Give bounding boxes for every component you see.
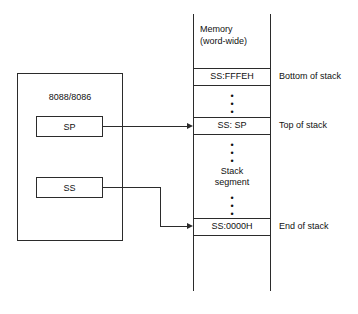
memory-divider-1 <box>193 68 271 69</box>
memory-divider-4 <box>193 134 271 135</box>
memory-cell-end-of-stack: SS:0000H <box>193 221 271 232</box>
stack-segment-label-line1: Stack <box>193 166 271 177</box>
memory-cell-bottom-of-stack: SS:FFFEH <box>193 71 271 82</box>
memory-header-line2: (word-wide) <box>200 35 247 47</box>
side-label-top-of-stack: Top of stack <box>279 120 327 131</box>
memory-ellipsis-middle-upper: • • • <box>193 141 271 165</box>
stack-diagram: 8088/8086 SP SS Memory (word-wide) SS:FF… <box>0 0 358 314</box>
ellipsis-dot: • <box>193 210 271 218</box>
ss-arrow-segment-horizontal-1 <box>103 187 161 188</box>
cpu-title: 8088/8086 <box>18 92 122 102</box>
memory-ellipsis-lower: • • • <box>193 194 271 218</box>
ss-arrow-head <box>187 223 193 229</box>
memory-divider-3 <box>193 117 271 118</box>
memory-ellipsis-upper: • • • <box>193 92 271 116</box>
side-label-end-of-stack: End of stack <box>279 221 329 232</box>
memory-divider-6 <box>193 235 271 236</box>
memory-cell-top-of-stack: SS: SP <box>193 120 271 131</box>
ellipsis-dot: • <box>193 108 271 116</box>
sp-arrow-head <box>187 123 193 129</box>
register-box-sp[interactable]: SP <box>36 116 103 137</box>
side-label-bottom-of-stack: Bottom of stack <box>279 71 341 82</box>
ss-arrow-segment-horizontal-2 <box>160 226 187 227</box>
register-label-sp: SP <box>37 122 102 132</box>
cpu-box: 8088/8086 <box>17 73 123 241</box>
sp-arrow-line <box>103 126 187 127</box>
stack-segment-label-line2: segment <box>193 177 271 188</box>
ss-arrow-segment-vertical <box>160 187 161 227</box>
register-label-ss: SS <box>37 183 102 193</box>
ellipsis-dot: • <box>193 157 271 165</box>
register-box-ss[interactable]: SS <box>36 177 103 198</box>
memory-header-line1: Memory <box>200 23 233 35</box>
memory-divider-2 <box>193 85 271 86</box>
